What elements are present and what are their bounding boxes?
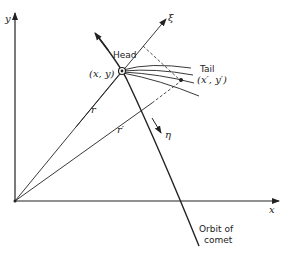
eta-axis [152,118,161,133]
y-axis-label: y [4,13,11,24]
head-label: Head [113,50,137,60]
head-coords-label: (x, y) [89,68,115,79]
comet-orbit-diagram: y x Head (x, y) Tail (x′, y′) r r′ ξ η O… [0,0,289,254]
r-prime-label: r′ [117,124,125,135]
r-label: r [91,104,97,115]
orbit-direction-arrow [95,33,108,50]
eta-label: η [165,129,171,140]
orbit-label-line2: comet [204,235,233,245]
tail-label: Tail [199,64,215,74]
orbit-label-line1: Orbit of [199,224,234,234]
comet-head-core [121,70,124,73]
tail-point [179,78,183,82]
x-axis-label: x [269,204,275,215]
tail-coords-label: (x′, y′) [197,74,227,85]
xi-label: ξ [168,12,174,23]
tail-streak-1 [123,65,191,70]
